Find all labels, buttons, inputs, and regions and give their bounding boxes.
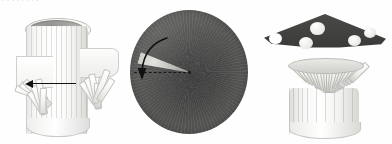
fringe-strips-left (6, 68, 52, 124)
disc-centre-point (188, 71, 191, 74)
cap-spot (348, 35, 361, 46)
panel-dark-disc (128, 6, 250, 138)
stem-base-edge (289, 122, 361, 139)
cap-edge-notch (269, 33, 282, 44)
assembly-arrow-shaft (30, 83, 76, 84)
rotation-curved-arrow-icon (134, 34, 174, 82)
figure-canvas: · · · · · · · · (0, 0, 392, 144)
cap-spot (299, 37, 313, 49)
stem-top-ring (288, 58, 364, 74)
panel-fringed-paper-tube (4, 10, 120, 142)
panel-assembled-mushroom (258, 6, 390, 140)
fringe-strip (39, 87, 47, 113)
cropped-text-fragment: · · · · · · · · (2, 0, 152, 4)
cap-spot (310, 22, 325, 35)
assembly-arrow-head-icon (25, 80, 33, 88)
fringe-strips-right (76, 60, 120, 118)
